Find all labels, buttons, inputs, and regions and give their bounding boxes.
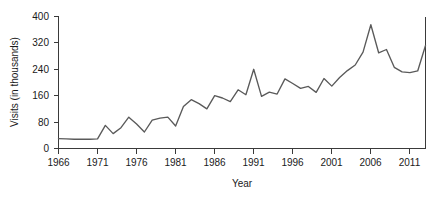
chart-canvas: 0 80 160 240 320 400 1966 1971 1976 1981 bbox=[0, 0, 439, 202]
x-tick-label: 1981 bbox=[164, 157, 187, 168]
x-tick-label: 1966 bbox=[47, 157, 70, 168]
y-tick-label: 160 bbox=[32, 90, 49, 101]
y-tick-label: 240 bbox=[32, 64, 49, 75]
line-chart: 0 80 160 240 320 400 1966 1971 1976 1981 bbox=[0, 0, 439, 202]
y-tick-label: 80 bbox=[38, 117, 50, 128]
x-tick-label: 2011 bbox=[399, 157, 421, 168]
x-tick-label: 1996 bbox=[281, 157, 304, 168]
x-axis-title: Year bbox=[232, 178, 253, 189]
data-series-line bbox=[59, 25, 426, 140]
x-tick-labels: 1966 1971 1976 1981 1986 1991 1996 2001 … bbox=[47, 157, 420, 168]
x-tick-label: 1971 bbox=[86, 157, 109, 168]
x-tick-label: 1986 bbox=[203, 157, 226, 168]
y-tick-label: 320 bbox=[32, 37, 49, 48]
x-tick-label: 2001 bbox=[320, 157, 343, 168]
y-tick-label: 400 bbox=[32, 11, 49, 22]
x-tick-label: 1991 bbox=[242, 157, 265, 168]
y-axis-title: Visits (in thousands) bbox=[9, 37, 20, 127]
x-tick-label: 2006 bbox=[359, 157, 382, 168]
y-tick-label: 0 bbox=[43, 143, 49, 154]
y-tick-labels: 0 80 160 240 320 400 bbox=[32, 11, 49, 154]
x-tick-label: 1976 bbox=[125, 157, 148, 168]
axis-frame bbox=[59, 17, 426, 149]
